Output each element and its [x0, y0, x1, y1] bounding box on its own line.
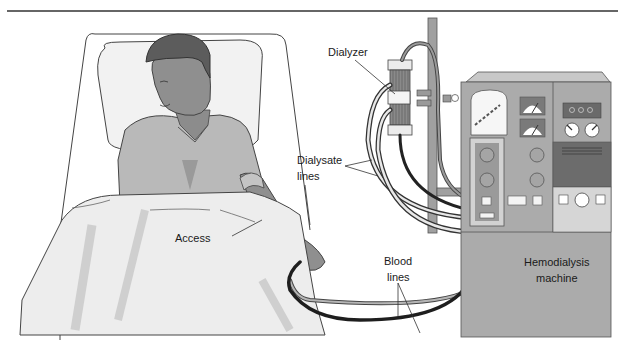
label-machine-1: Hemodialysis: [524, 254, 589, 270]
hemodialysis-machine: [461, 72, 611, 337]
hemodialysis-diagram: Dialyzer Dialysate lines Access Blood li…: [0, 0, 623, 347]
label-dialysate-lines-2: lines: [297, 168, 320, 184]
label-access: Access: [175, 230, 210, 246]
label-dialysate-lines-1: Dialysate: [297, 152, 342, 168]
label-blood-lines-2: lines: [387, 269, 410, 285]
label-blood-lines-1: Blood: [384, 253, 412, 269]
label-machine-2: machine: [536, 270, 578, 286]
label-dialyzer: Dialyzer: [328, 44, 368, 60]
dialyzer: [388, 60, 459, 135]
